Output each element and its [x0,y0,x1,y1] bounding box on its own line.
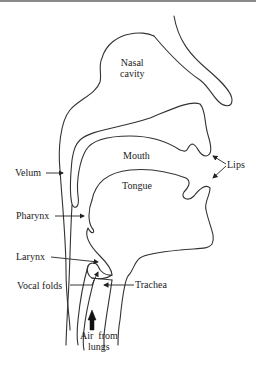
label-larynx: Larynx [16,251,45,262]
air-flow-arrow-icon [88,310,96,330]
nose-outline [154,16,232,106]
esophagus-back [66,205,72,345]
label-mouth: Mouth [123,150,150,161]
lips-lower-arrow [213,166,226,178]
label-nasal-cavity: Nasal cavity [120,57,144,79]
larynx-arrow [51,257,98,262]
label-tongue: Tongue [122,180,152,191]
lips-upper-arrow [213,156,226,164]
label-lips: Lips [227,159,245,170]
tongue-outline [92,169,213,345]
label-trachea: Trachea [135,279,167,290]
label-velum: Velum [15,167,41,178]
label-pharynx: Pharynx [16,210,49,221]
label-air-from-lungs: Air from lungs [80,330,118,352]
label-vocal-folds: Vocal folds [17,280,62,291]
